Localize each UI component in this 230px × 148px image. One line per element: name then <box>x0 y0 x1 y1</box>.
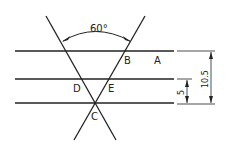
point-label-a: A <box>154 55 161 66</box>
dimension-label-5: 5 <box>177 90 186 95</box>
point-label-b: B <box>124 55 131 66</box>
transversal-left <box>46 16 116 140</box>
point-label-d: D <box>73 83 81 94</box>
transversal-right <box>74 16 145 140</box>
angle-label: 60° <box>90 23 108 34</box>
dimension-label-10-5: 10.5 <box>201 70 210 88</box>
point-label-c: C <box>91 111 98 122</box>
geometry-diagram: 60° B A D E C 10.5 5 <box>0 0 230 148</box>
point-label-e: E <box>108 83 114 94</box>
